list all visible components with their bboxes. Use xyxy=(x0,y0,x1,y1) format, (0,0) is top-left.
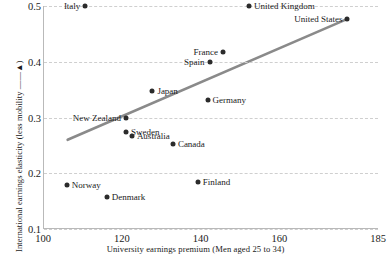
point-label: Australia xyxy=(137,131,170,141)
data-point[interactable] xyxy=(207,59,212,64)
data-point[interactable] xyxy=(170,142,175,147)
gridline-y-0.5 xyxy=(44,6,378,7)
data-point[interactable] xyxy=(220,50,225,55)
point-label: Italy xyxy=(64,1,81,11)
x-tick-140: 140 xyxy=(193,233,209,244)
data-point[interactable] xyxy=(345,16,350,21)
x-tick-120: 120 xyxy=(114,233,130,244)
chart-figure: International earnings elasticity (less … xyxy=(0,0,391,258)
data-point[interactable] xyxy=(246,4,251,9)
point-label: Germany xyxy=(213,95,247,105)
data-point[interactable] xyxy=(205,98,210,103)
x-tick-100: 100 xyxy=(35,233,51,244)
data-point[interactable] xyxy=(195,179,200,184)
point-label: Japan xyxy=(157,86,178,96)
y-tick-0.2: 0.2 xyxy=(1,168,41,179)
point-label: Canada xyxy=(178,139,205,149)
data-point[interactable] xyxy=(123,115,128,120)
point-label: United States xyxy=(294,14,342,24)
x-tick-185: 185 xyxy=(370,233,386,244)
y-tick-0.5: 0.5 xyxy=(1,1,41,12)
plot-area: ItalyUnited KingdomUnited StatesFranceSp… xyxy=(43,6,378,229)
gridline-y-0.1 xyxy=(44,229,378,230)
y-axis-tick-labels: 0.10.20.30.40.5 xyxy=(0,0,41,258)
point-label: Denmark xyxy=(112,192,146,202)
gridline-y-0.2 xyxy=(44,173,378,174)
point-label: United Kingdom xyxy=(254,1,315,11)
x-tick-160: 160 xyxy=(272,233,288,244)
data-point[interactable] xyxy=(64,182,69,187)
data-point[interactable] xyxy=(129,133,134,138)
x-axis-title: University earnings premium (Men aged 25… xyxy=(0,244,391,254)
y-tick-0.3: 0.3 xyxy=(1,112,41,123)
point-label: Norway xyxy=(72,180,101,190)
data-point[interactable] xyxy=(83,4,88,9)
point-label: New Zealand xyxy=(73,113,121,123)
point-label: Spain xyxy=(184,57,205,67)
y-tick-0.4: 0.4 xyxy=(1,56,41,67)
data-point[interactable] xyxy=(150,88,155,93)
data-point[interactable] xyxy=(123,129,128,134)
data-point[interactable] xyxy=(104,195,109,200)
point-label: Finland xyxy=(203,177,231,187)
